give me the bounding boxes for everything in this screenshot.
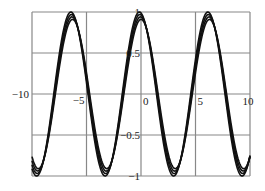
y-tick-label: 1 — [135, 6, 141, 18]
x-tick-label: −10 — [12, 88, 30, 100]
y-tick-label: 0.5 — [126, 47, 140, 59]
x-tick-label: 10 — [243, 95, 255, 107]
line-chart: −10−50510−1−0.50.51 — [0, 0, 265, 191]
x-tick-label: 5 — [198, 95, 204, 107]
x-tick-label: 0 — [143, 95, 149, 107]
y-tick-label: −1 — [128, 170, 140, 182]
y-tick-label: −0.5 — [120, 129, 140, 141]
x-tick-label: −5 — [73, 94, 85, 106]
